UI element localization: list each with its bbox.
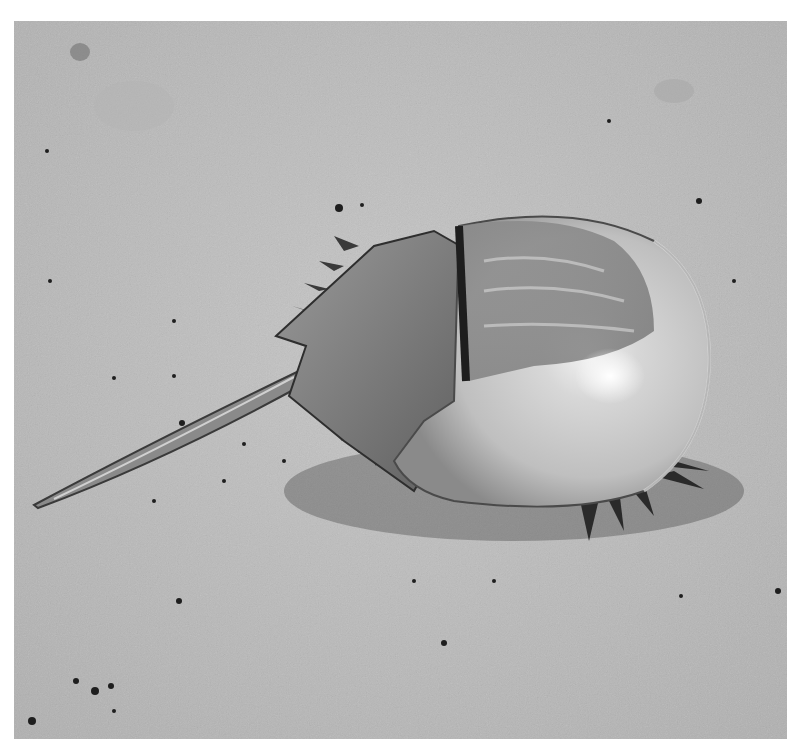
horseshoe-crab-photo [14,21,787,739]
shell-glare [575,348,645,404]
photo-frame: Horseshoe crab on sand [14,21,787,739]
